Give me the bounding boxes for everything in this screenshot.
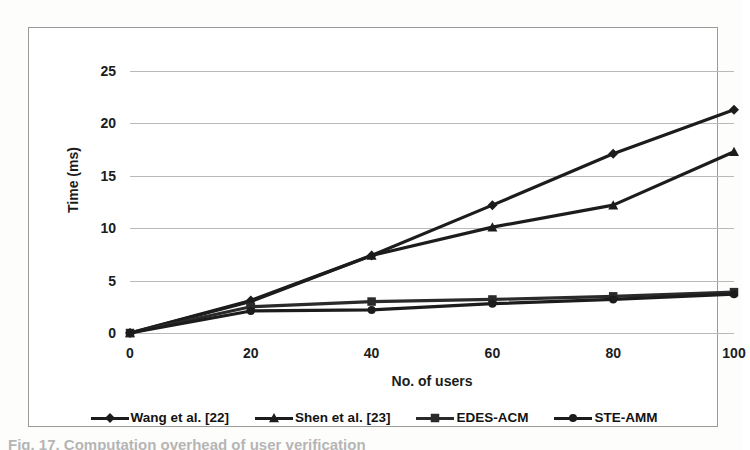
data-point-marker bbox=[487, 200, 497, 210]
y-tick-label: 25 bbox=[76, 63, 116, 79]
x-tick-label: 0 bbox=[100, 345, 160, 361]
legend-item-1[interactable]: Wang et al. [22] bbox=[91, 410, 230, 425]
gridline bbox=[130, 333, 734, 334]
figure-caption: Fig. 17. Computation overhead of user ve… bbox=[8, 436, 428, 450]
x-axis-title: No. of users bbox=[130, 373, 734, 389]
data-point-marker bbox=[609, 295, 617, 303]
legend-label: EDES-ACM bbox=[456, 410, 528, 425]
data-point-marker bbox=[608, 149, 618, 159]
y-tick-label: 20 bbox=[76, 115, 116, 131]
legend-label: STE-AMM bbox=[594, 410, 657, 425]
chart-frame: Time (ms) 0510152025 020406080100 No. of… bbox=[28, 27, 718, 427]
circle-marker-icon bbox=[554, 411, 592, 425]
x-tick-label: 40 bbox=[342, 345, 402, 361]
diamond-marker-icon bbox=[91, 411, 129, 425]
x-tick-label: 20 bbox=[221, 345, 281, 361]
triangle-marker-icon bbox=[255, 411, 293, 425]
legend-marker bbox=[429, 412, 441, 424]
legend-item-3[interactable]: EDES-ACM bbox=[416, 410, 528, 425]
square-marker-icon bbox=[416, 411, 454, 425]
legend-item-2[interactable]: Shen et al. [23] bbox=[255, 410, 390, 425]
series-layer bbox=[130, 71, 734, 333]
data-point-marker bbox=[126, 329, 134, 337]
series-3 bbox=[126, 288, 739, 337]
x-tick-label: 100 bbox=[704, 345, 750, 361]
x-tick-label: 60 bbox=[462, 345, 522, 361]
legend-marker bbox=[268, 412, 280, 424]
y-tick-label: 10 bbox=[76, 220, 116, 236]
plot-area: 0510152025 020406080100 bbox=[130, 71, 734, 333]
x-tick-label: 80 bbox=[583, 345, 643, 361]
legend-marker bbox=[104, 412, 116, 424]
chart-legend: Wang et al. [22]Shen et al. [23]EDES-ACM… bbox=[29, 410, 719, 425]
y-tick-label: 0 bbox=[76, 325, 116, 341]
legend-label: Shen et al. [23] bbox=[295, 410, 390, 425]
data-point-marker bbox=[247, 307, 255, 315]
data-point-marker bbox=[730, 290, 738, 298]
data-point-marker bbox=[367, 297, 376, 306]
y-tick-label: 15 bbox=[76, 168, 116, 184]
data-point-marker bbox=[368, 306, 376, 314]
y-tick-label: 5 bbox=[76, 273, 116, 289]
legend-marker bbox=[567, 412, 579, 424]
data-point-marker bbox=[488, 300, 496, 308]
legend-label: Wang et al. [22] bbox=[131, 410, 230, 425]
series-1 bbox=[125, 105, 739, 338]
legend-item-4[interactable]: STE-AMM bbox=[554, 410, 657, 425]
